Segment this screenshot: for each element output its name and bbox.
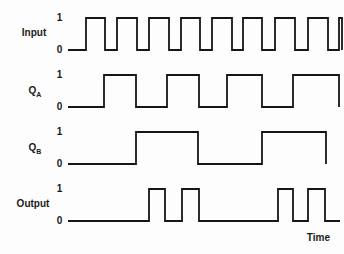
tick-low-qa: 0 <box>57 102 63 112</box>
tick-low-input-text: 0 <box>57 44 63 55</box>
labels-layer: Input10QA10QB10Output10 <box>0 0 344 254</box>
signal-label-input: Input <box>22 28 46 38</box>
timing-diagram: Input10QA10QB10Output10 Time <box>0 0 344 254</box>
signal-label-output: Output <box>17 199 50 209</box>
signal-label-output-text: Output <box>17 198 50 209</box>
tick-low-qb: 0 <box>57 159 63 169</box>
tick-high-qa: 1 <box>57 70 63 80</box>
signal-label-qa-subscript: A <box>36 91 41 98</box>
signal-label-input-text: Input <box>22 27 46 38</box>
tick-low-output: 0 <box>57 216 63 226</box>
tick-high-output: 1 <box>57 184 63 194</box>
tick-high-qb: 1 <box>57 127 63 137</box>
signal-label-qb-text: Q <box>29 142 37 153</box>
tick-low-qb-text: 0 <box>57 158 63 169</box>
signal-label-qb: QB <box>29 143 42 155</box>
tick-high-input-text: 1 <box>57 12 63 23</box>
signal-label-qa: QA <box>29 86 42 98</box>
signal-label-qb-subscript: B <box>36 148 41 155</box>
tick-high-qa-text: 1 <box>57 69 63 80</box>
tick-low-input: 0 <box>57 45 63 55</box>
tick-low-qa-text: 0 <box>57 101 63 112</box>
tick-high-qb-text: 1 <box>57 126 63 137</box>
tick-low-output-text: 0 <box>57 215 63 226</box>
signal-label-qa-text: Q <box>29 85 37 96</box>
time-axis-label: Time <box>307 233 330 243</box>
tick-high-output-text: 1 <box>57 183 63 194</box>
tick-high-input: 1 <box>57 13 63 23</box>
